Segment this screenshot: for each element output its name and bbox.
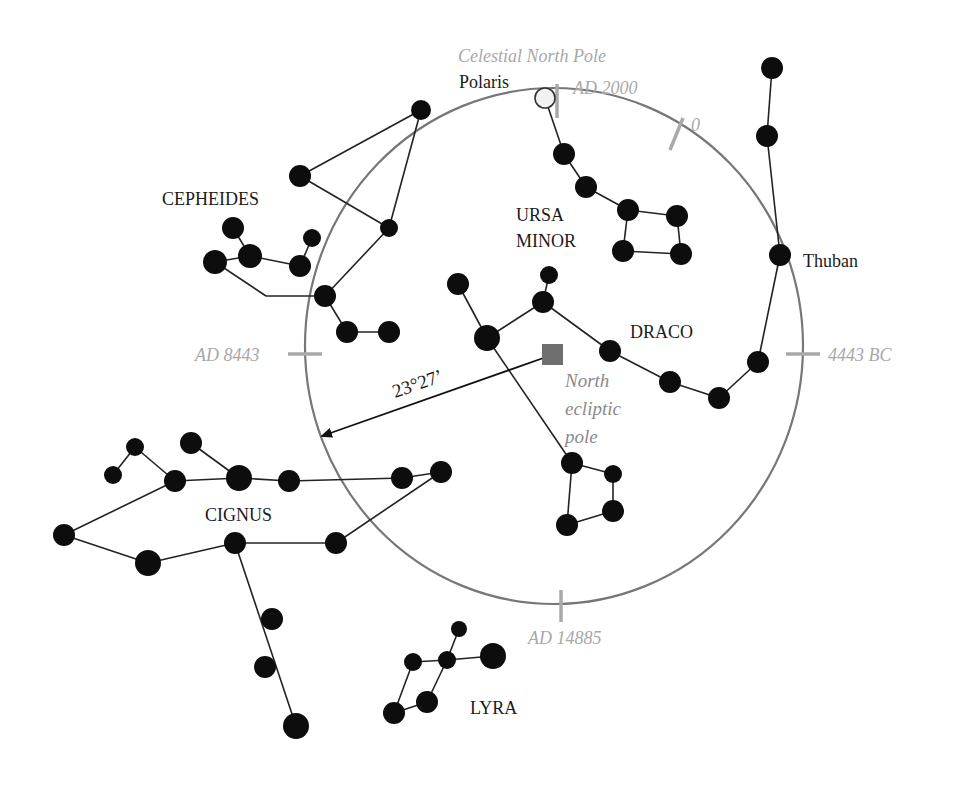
cepheides-stars — [203, 100, 431, 343]
label-cignus: CIGNUS — [205, 505, 272, 525]
label-thuban: Thuban — [803, 251, 858, 271]
label-north-ecliptic-pole-2: ecliptic — [565, 398, 621, 419]
tick-0 — [670, 118, 683, 150]
label-ursa-minor-line2: MINOR — [516, 231, 576, 251]
label-ursa-minor-line1: URSA — [516, 205, 564, 225]
label-epoch-ad-8443: AD 8443 — [194, 345, 260, 365]
label-epoch-0: 0 — [691, 115, 700, 135]
label-draco: DRACO — [630, 322, 693, 342]
cignus-edges — [64, 443, 441, 726]
polaris-star — [535, 88, 555, 108]
thuban-star — [769, 244, 791, 266]
label-north-ecliptic-pole-1: North — [564, 370, 609, 391]
label-epoch-4443-bc: 4443 BC — [828, 345, 892, 365]
north-ecliptic-pole-marker — [542, 344, 563, 365]
label-polaris: Polaris — [459, 72, 509, 92]
label-lyra: LYRA — [470, 698, 517, 718]
label-cepheides: CEPHEIDES — [162, 189, 259, 209]
label-north-ecliptic-pole-3: pole — [563, 426, 598, 447]
draco-edges — [458, 68, 780, 525]
label-epoch-ad-2000: AD 2000 — [572, 78, 638, 98]
label-celestial-north-pole: Celestial North Pole — [458, 46, 606, 66]
draco-stars — [447, 57, 791, 536]
label-epoch-ad-14885: AD 14885 — [527, 628, 602, 648]
precession-diagram: Celestial North Pole AD 2000 0 4443 BC A… — [0, 0, 959, 786]
